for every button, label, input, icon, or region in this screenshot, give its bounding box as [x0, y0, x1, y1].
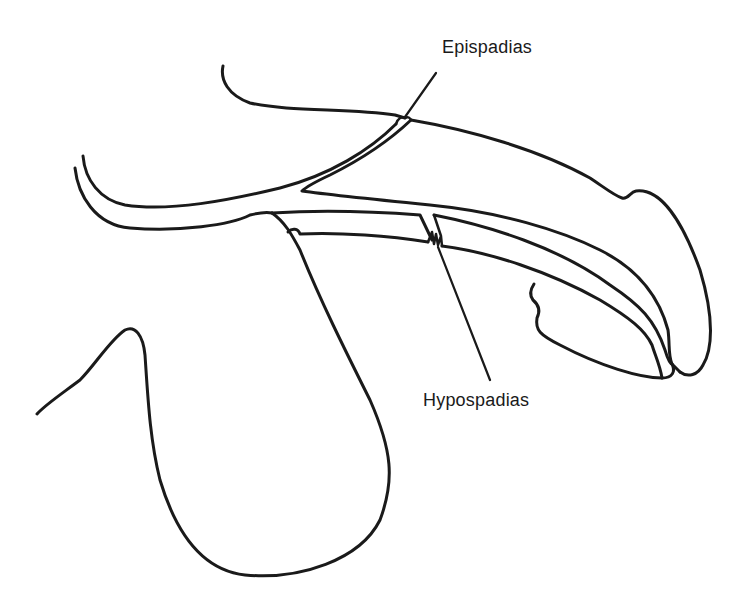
- scrotum-outline: [37, 213, 389, 576]
- hypospadias-label: Hypospadias: [423, 390, 529, 411]
- urethra-distal-lower: [442, 246, 662, 378]
- epispadias-label: Epispadias: [442, 37, 532, 58]
- epispadias-leader-line: [405, 73, 436, 117]
- diagram-canvas: Epispadias Hypospadias: [0, 0, 743, 615]
- dorsal-outline: [222, 66, 710, 375]
- upper-channel-inner: [302, 120, 672, 364]
- lower-channel-outer: [75, 168, 272, 229]
- hypospadias-leader-line: [438, 247, 490, 380]
- lower-channel-lower-line: [288, 229, 428, 242]
- hypospadias-opening: [428, 215, 442, 246]
- anatomy-outline: [0, 0, 743, 615]
